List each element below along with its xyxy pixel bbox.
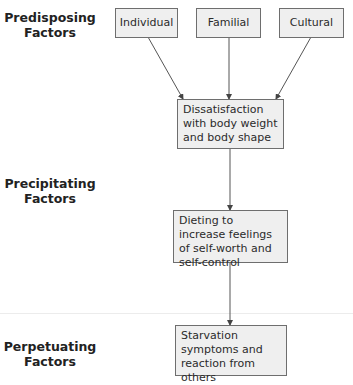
node-text: Dissatisfaction with body weight and bod… [183, 103, 278, 144]
node-cultural: Cultural [279, 8, 344, 38]
node-dissatisfaction: Dissatisfaction with body weight and bod… [177, 99, 284, 149]
node-text: Dieting to increase feelings of self-wor… [179, 214, 272, 269]
arrow-individual-to-dissatisfaction [148, 37, 183, 99]
node-individual: Individual [115, 8, 178, 38]
node-text: Familial [208, 16, 250, 30]
node-text: Cultural [290, 16, 333, 30]
node-familial: Familial [196, 8, 261, 38]
node-starvation: Starvation symptoms and reaction from ot… [175, 325, 287, 376]
node-text: Starvation symptoms and reaction from ot… [181, 329, 263, 384]
node-dieting: Dieting to increase feelings of self-wor… [173, 210, 288, 263]
node-text: Individual [120, 16, 174, 30]
arrow-cultural-to-dissatisfaction [276, 37, 311, 99]
